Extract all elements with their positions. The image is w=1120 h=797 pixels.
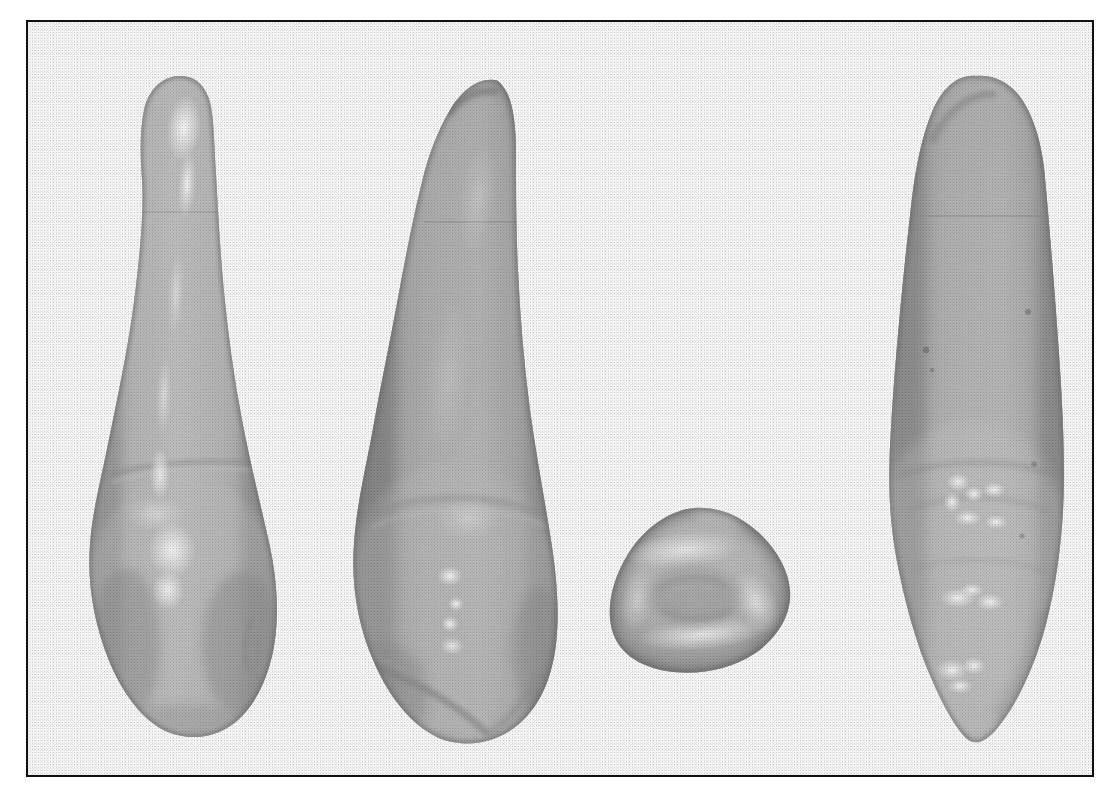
specimen-incisal-view: [598, 492, 818, 682]
specimen-lingual-view: [848, 50, 1098, 755]
labial-view-graphic: [56, 44, 306, 744]
specimen-mesial-view: [328, 48, 588, 748]
mesial-view-graphic: [328, 48, 588, 748]
specimen-labial-view: [56, 44, 306, 744]
specimen-stage: [28, 22, 1092, 775]
lingual-view-graphic: [848, 50, 1098, 755]
plate-frame: [26, 20, 1094, 777]
screenshot-root: Labial view Mesial view Incisal view Lin…: [0, 0, 1120, 797]
incisal-view-graphic: [598, 492, 818, 682]
